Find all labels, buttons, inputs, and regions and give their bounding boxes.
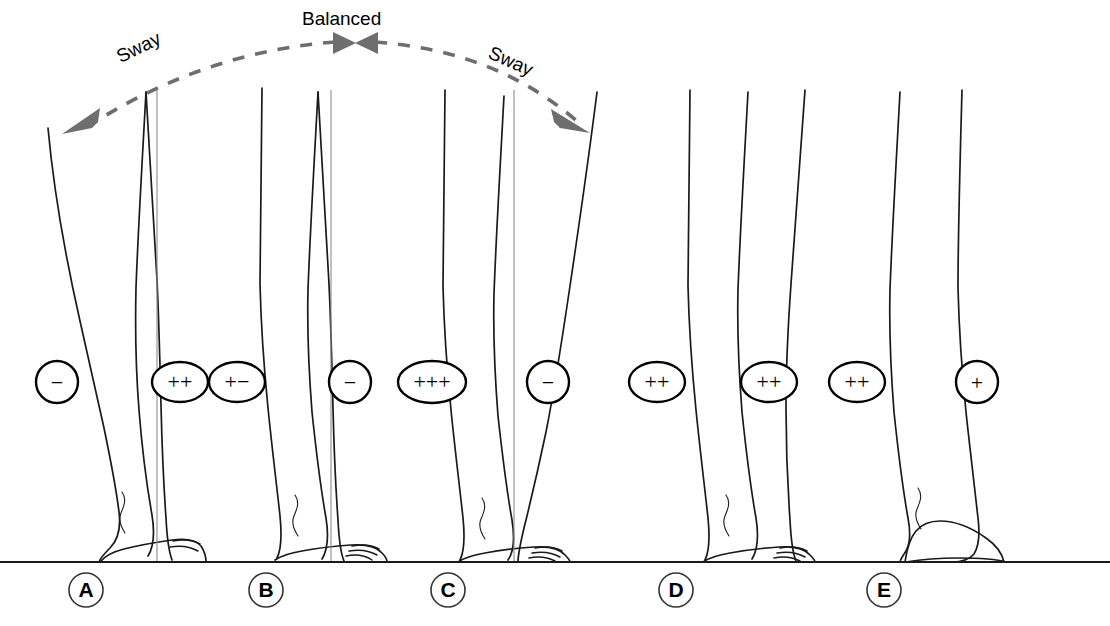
panel-letter-group xyxy=(69,573,901,607)
balanced-arrow-left xyxy=(333,32,356,54)
badge-c-3-symbol: − xyxy=(528,370,568,396)
leg-e-back xyxy=(890,92,910,562)
sway-arrow-right-head xyxy=(551,109,590,133)
toes-b xyxy=(346,545,379,560)
leg-b-achilles-mark xyxy=(293,495,298,536)
toes-c xyxy=(529,547,562,561)
badge-c-1-symbol: − xyxy=(330,370,370,396)
postural-sway-svg xyxy=(0,0,1110,626)
panel-label-b: B xyxy=(246,578,286,602)
panel-label-e: E xyxy=(864,578,904,602)
badge-e-2-symbol: + xyxy=(957,370,997,396)
leg-a-calf xyxy=(146,92,172,560)
badge-e-1-symbol: ++ xyxy=(829,369,885,395)
badge-b-2-symbol: +− xyxy=(209,369,265,395)
leg-e-heel-shoe xyxy=(900,521,1004,562)
badge-c-2-symbol: +++ xyxy=(398,369,466,395)
panel-label-d: D xyxy=(656,578,696,602)
leg-b-back xyxy=(260,88,281,558)
leg-c-achilles-mark xyxy=(480,498,485,539)
sway-arc-right xyxy=(375,42,578,122)
leg-silhouettes-group xyxy=(48,88,1006,562)
leg-d-achilles-mark xyxy=(724,495,729,536)
leg-c-calf xyxy=(518,92,597,562)
leg-e-achilles-mark xyxy=(916,488,921,529)
panel-label-a: A xyxy=(66,578,106,602)
badge-d-2-symbol: ++ xyxy=(741,369,797,395)
leg-a-back xyxy=(48,128,120,562)
leg-d-back xyxy=(688,90,709,560)
leg-a-achilles-mark xyxy=(120,492,125,533)
badge-b-1-symbol: ++ xyxy=(152,369,208,395)
leg-d-calf xyxy=(786,90,805,561)
leg-e-front xyxy=(952,90,979,562)
toes-a xyxy=(170,540,200,551)
badge-d-1-symbol: ++ xyxy=(629,369,685,395)
leg-c-back xyxy=(443,90,464,560)
balanced-label: Balanced xyxy=(302,8,381,30)
leg-c-shin xyxy=(494,96,514,560)
badge-a-1-symbol: − xyxy=(37,370,77,396)
panel-label-c: C xyxy=(428,578,468,602)
toes-d xyxy=(774,547,807,561)
leg-b-shin xyxy=(308,92,328,559)
leg-d-shin xyxy=(738,92,758,559)
diagram-canvas: Balanced Sway Sway − ++ +− − +++ − ++ ++… xyxy=(0,0,1110,626)
balanced-arrow-right xyxy=(355,32,378,54)
sway-arrow-left-head xyxy=(62,108,100,134)
